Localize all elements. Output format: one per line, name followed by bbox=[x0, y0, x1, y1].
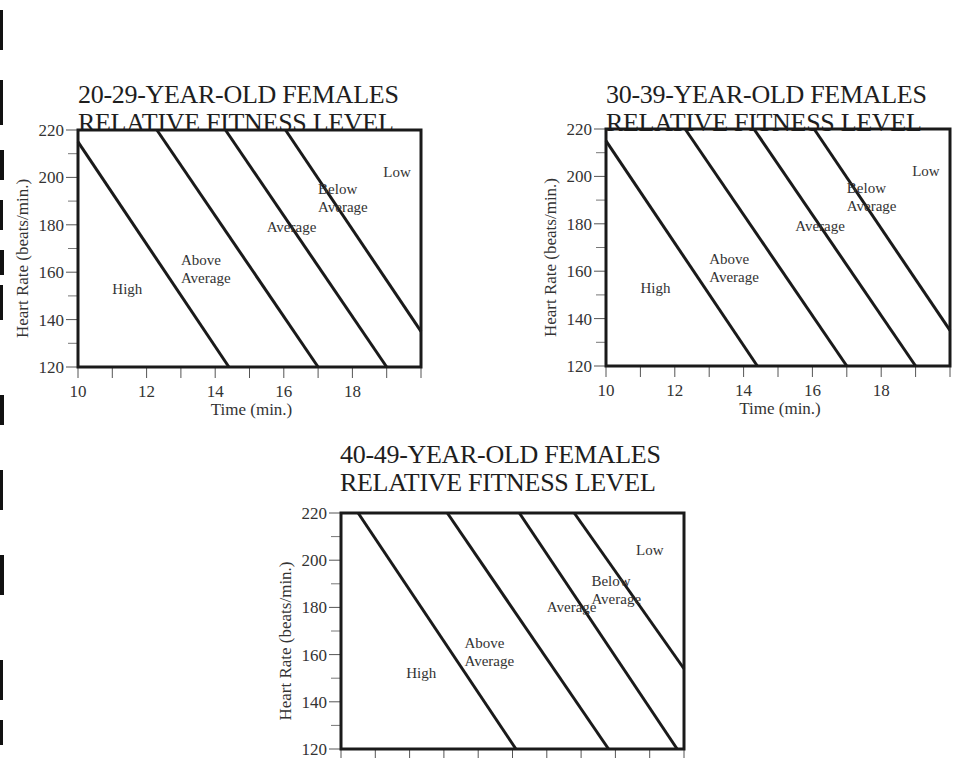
y-tick-label: 200 bbox=[302, 551, 328, 570]
region-label: Average bbox=[547, 599, 597, 615]
plot-frame bbox=[341, 513, 684, 749]
y-tick-label: 220 bbox=[302, 504, 328, 523]
chart-40-49: 40-49-YEAR-OLD FEMALES RELATIVE FITNESS … bbox=[0, 0, 962, 758]
y-tick-label: 160 bbox=[302, 646, 328, 665]
region-label: BelowAverage bbox=[591, 573, 641, 607]
y-tick-label: 180 bbox=[302, 598, 328, 617]
region-label: High bbox=[406, 665, 437, 681]
fitness-boundary-line bbox=[447, 513, 608, 749]
y-tick-label: 120 bbox=[302, 740, 328, 758]
region-label: AboveAverage bbox=[464, 635, 514, 669]
y-tick-label: 140 bbox=[302, 693, 328, 712]
plot-area: 120140160180200220Heart Rate (beats/min.… bbox=[0, 0, 962, 758]
fitness-boundary-line bbox=[358, 513, 516, 749]
y-axis-label: Heart Rate (beats/min.) bbox=[276, 561, 295, 720]
region-label: Low bbox=[636, 542, 664, 558]
